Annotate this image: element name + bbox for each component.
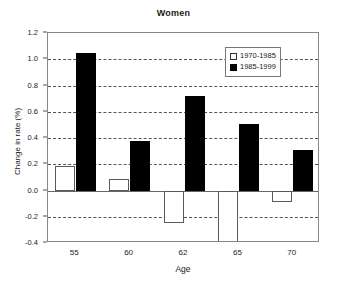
legend-label: 1985-1999 [240,63,276,71]
y-tick-label: 0.4 [28,133,38,142]
x-tick-label: 62 [179,248,188,257]
x-tick-label: 60 [124,248,133,257]
y-tick-label: 0.0 [28,185,38,194]
bar-55-1985-1999 [76,53,96,191]
legend-swatch-icon [230,53,237,60]
legend-label: 1970-1985 [240,52,276,60]
y-tick-label: 1.0 [28,54,38,63]
y-tick-label: -0.4 [25,238,38,247]
x-tick-label: 55 [70,248,79,257]
x-axis: Age 5560626570 [47,242,319,282]
bar-62-1970-1985 [164,191,184,224]
bar-65-1985-1999 [239,124,259,191]
x-axis-title: Age [47,264,319,274]
y-axis: 1.21.00.80.60.40.20.0-0.2-0.4 [0,32,47,242]
legend-item-1970-1985: 1970-1985 [230,51,276,61]
x-tick-label: 70 [287,248,296,257]
bar-60-1970-1985 [109,179,129,191]
bar-60-1985-1999 [130,141,150,191]
bar-70-1985-1999 [293,150,313,191]
chart-title: Women [0,8,347,18]
bar-65-1970-1985 [218,191,238,242]
y-tick-label: 0.6 [28,106,38,115]
bar-62-1985-1999 [185,96,205,191]
x-tick-label: 65 [233,248,242,257]
chart-figure: Women Change in rate (%) 1.21.00.80.60.4… [0,0,347,288]
bar-70-1970-1985 [272,191,292,203]
bar-55-1970-1985 [55,166,75,191]
y-tick-label: 0.2 [28,159,38,168]
chart-legend: 1970-19851985-1999 [225,47,281,77]
y-tick-label: 0.8 [28,80,38,89]
legend-swatch-icon [230,64,237,71]
y-tick-label: 1.2 [28,28,38,37]
legend-item-1985-1999: 1985-1999 [230,62,276,72]
y-tick-label: -0.2 [25,211,38,220]
